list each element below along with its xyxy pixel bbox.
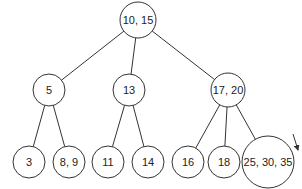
tree-edge (62, 31, 124, 80)
node-label: 25, 30, 35 (244, 156, 293, 168)
node-label: 16 (182, 156, 194, 168)
node-label: 18 (218, 156, 230, 168)
tree-node-n17_20: 17, 20 (211, 73, 245, 107)
tree-node-n18: 18 (208, 146, 240, 178)
tree-edge (225, 107, 227, 146)
tree-edge (53, 105, 64, 146)
tree-edge (33, 105, 44, 146)
tree-node-n8_9: 8, 9 (53, 146, 85, 178)
tree-node-n25_30_35: 25, 30, 35 (242, 136, 294, 188)
node-label: 17, 20 (213, 84, 244, 96)
tree-node-n3: 3 (13, 146, 45, 178)
tree-node-n5: 5 (33, 74, 65, 106)
tree-edge (236, 105, 255, 139)
node-label: 3 (26, 156, 32, 168)
tree-node-n16: 16 (172, 146, 204, 178)
tree-node-n13: 13 (113, 74, 145, 106)
tree-nodes: 10, 1551317, 2038, 91114161825, 30, 35 (13, 2, 294, 188)
node-label: 5 (46, 84, 52, 96)
tree-node-n11: 11 (92, 146, 124, 178)
node-label: 11 (102, 156, 113, 168)
node-label: 8, 9 (60, 156, 78, 168)
tree-diagram: 10, 1551317, 2038, 91114161825, 30, 35 (0, 0, 302, 189)
node-label: 13 (123, 84, 135, 96)
tree-node-n14: 14 (132, 146, 164, 178)
tree-node-root: 10, 15 (120, 2, 156, 38)
tree-edge (112, 105, 124, 146)
node-label: 14 (142, 156, 154, 168)
tree-edge (131, 38, 136, 74)
node-label: 10, 15 (123, 14, 154, 26)
tree-edge (152, 31, 214, 80)
arrow-icon (293, 134, 298, 150)
tree-edge (133, 105, 144, 146)
tree-edge (196, 105, 220, 148)
